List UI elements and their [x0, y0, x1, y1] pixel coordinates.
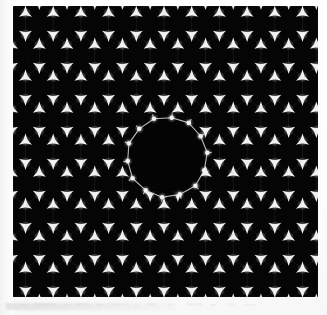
scan-artifact-mark — [210, 304, 216, 306]
micrograph-image — [13, 6, 318, 297]
paper-margin-shading — [0, 0, 14, 315]
scan-artifact-mark — [244, 304, 256, 306]
scan-artifact-mark — [226, 303, 235, 306]
faded-caption-artifact — [6, 303, 176, 310]
scan-artifact-mark — [186, 303, 202, 306]
page-canvas — [0, 0, 327, 315]
micrograph-panel — [13, 6, 318, 297]
